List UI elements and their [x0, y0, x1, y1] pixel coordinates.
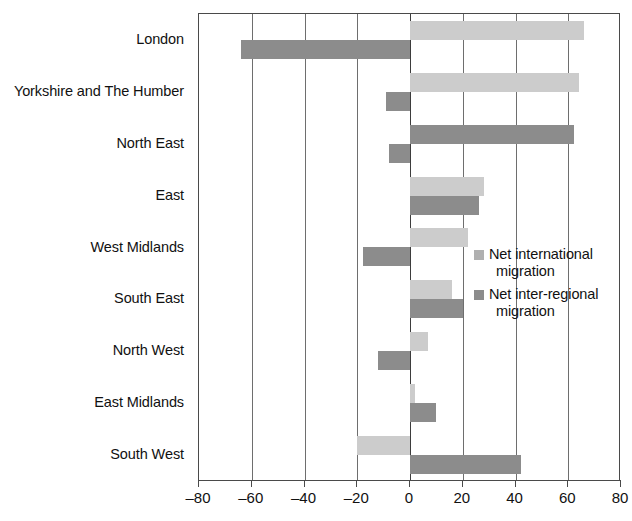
bar-net-international — [410, 280, 452, 299]
bar-net-international — [357, 436, 410, 455]
bar-net-inter-regional — [378, 351, 410, 370]
bar-net-inter-regional — [410, 299, 463, 318]
bar-group — [199, 377, 619, 429]
bar-net-international — [410, 332, 428, 351]
legend-label: Net internationalmigration — [489, 246, 593, 280]
x-tick-label: 20 — [453, 489, 470, 507]
category-label: South West — [110, 446, 184, 462]
category-label: North East — [117, 135, 185, 151]
horizontal-bar-chart: LondonYorkshire and The HumberNorth East… — [0, 0, 632, 521]
x-tick — [198, 480, 199, 487]
x-tick — [409, 480, 410, 487]
category-label: East Midlands — [94, 394, 184, 410]
bar-group — [199, 325, 619, 377]
chart-legend: Net internationalmigrationNet inter-regi… — [474, 246, 632, 326]
bar-net-international — [410, 21, 584, 40]
bar-group — [199, 14, 619, 66]
legend-item: Net internationalmigration — [474, 246, 632, 280]
x-tick-label: –20 — [344, 489, 369, 507]
x-tick-label: 0 — [405, 489, 413, 507]
bar-group — [199, 118, 619, 170]
x-tick — [567, 480, 568, 487]
legend-item: Net inter-regionalmigration — [474, 286, 632, 320]
bar-net-international — [410, 228, 468, 247]
x-tick — [515, 480, 516, 487]
bar-net-inter-regional — [389, 144, 410, 163]
x-tick-label: 40 — [506, 489, 523, 507]
bar-group — [199, 66, 619, 118]
bar-group — [199, 429, 619, 481]
bar-net-inter-regional — [410, 196, 479, 215]
x-tick — [462, 480, 463, 487]
legend-label: Net inter-regionalmigration — [489, 286, 598, 320]
legend-label-line1: Net inter-regional — [489, 286, 598, 302]
bar-group — [199, 170, 619, 222]
category-axis: LondonYorkshire and The HumberNorth East… — [0, 13, 192, 480]
x-tick — [251, 480, 252, 487]
category-label: West Midlands — [90, 239, 184, 255]
category-label: Yorkshire and The Humber — [14, 83, 184, 99]
bar-net-inter-regional — [410, 455, 521, 474]
bar-net-inter-regional — [386, 92, 410, 111]
bar-net-inter-regional — [410, 403, 436, 422]
x-tick-label: –80 — [185, 489, 210, 507]
bar-net-international — [410, 73, 579, 92]
legend-swatch-icon — [474, 250, 484, 260]
bar-net-international — [410, 384, 415, 403]
category-label: South East — [114, 290, 184, 306]
x-tick — [304, 480, 305, 487]
bar-net-inter-regional — [241, 40, 410, 59]
legend-label-line1: Net international — [489, 246, 593, 262]
legend-label-line2: migration — [489, 263, 593, 280]
x-tick-label: –40 — [291, 489, 316, 507]
legend-label-line2: migration — [489, 303, 598, 320]
bar-net-inter-regional — [363, 247, 410, 266]
x-tick — [620, 480, 621, 487]
x-tick — [356, 480, 357, 487]
x-tick-label: –60 — [238, 489, 263, 507]
category-label: London — [136, 31, 184, 47]
category-label: East — [155, 187, 184, 203]
bar-net-international — [410, 177, 484, 196]
category-label: North West — [113, 342, 184, 358]
legend-swatch-icon — [474, 290, 484, 300]
x-tick-label: 80 — [612, 489, 629, 507]
bar-net-international — [410, 125, 574, 144]
x-tick-label: 60 — [559, 489, 576, 507]
